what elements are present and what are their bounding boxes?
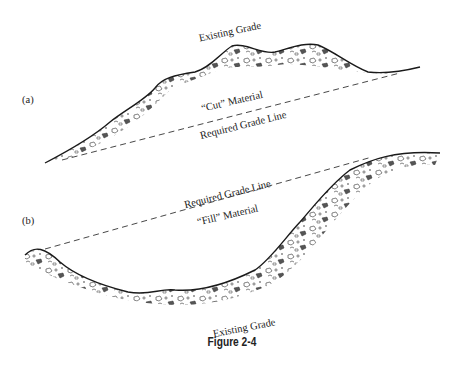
panel-label-a: (a) bbox=[22, 94, 34, 106]
cut-material-label: “Cut” Material bbox=[200, 89, 264, 114]
fill-material-label: “Fill” Material bbox=[196, 203, 259, 228]
cut-fill-diagram: (a) Existing Grade “Cut” Material Requir… bbox=[0, 0, 464, 368]
required-grade-label-b: Required Grade Line bbox=[183, 178, 272, 210]
required-grade-label-a: Required Grade Line bbox=[199, 109, 288, 141]
panel-label-b: (b) bbox=[22, 215, 35, 227]
panel-a: (a) Existing Grade “Cut” Material Requir… bbox=[22, 20, 420, 163]
existing-grade-label-a: Existing Grade bbox=[198, 20, 263, 44]
figure-caption: Figure 2-4 bbox=[35, 335, 429, 349]
panel-b: (b) Required Grade Line “Fill” Material … bbox=[22, 152, 440, 339]
fill-material-rock-band bbox=[25, 152, 440, 305]
required-grade-dashed-line-a bbox=[62, 73, 400, 160]
